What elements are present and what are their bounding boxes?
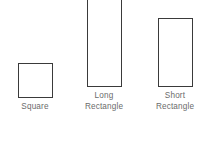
square-label: Square — [4, 98, 66, 113]
short-rectangle-label: Short Rectangle — [144, 87, 206, 112]
long-rectangle-shape — [87, 0, 122, 87]
square-shape — [18, 63, 53, 98]
short-rectangle-shape — [158, 18, 193, 87]
long-rectangle-label: Long Rectangle — [73, 87, 135, 112]
shape-group-long-rectangle: Long Rectangle — [72, 0, 136, 112]
diagram-canvas: Square Long Rectangle Short Rectangle — [0, 0, 213, 147]
shape-group-square: Square — [3, 63, 67, 113]
shape-group-short-rectangle: Short Rectangle — [143, 18, 207, 112]
